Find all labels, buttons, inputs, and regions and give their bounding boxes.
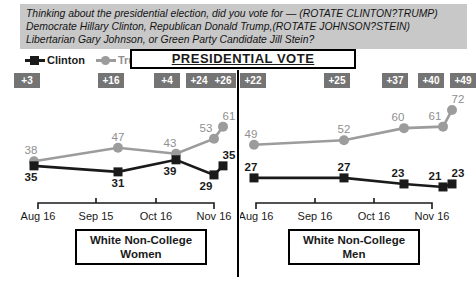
clinton-marker bbox=[114, 167, 123, 176]
line-chart-women: Aug 16Sep 15Oct 16Nov 163847435361353139… bbox=[8, 84, 236, 229]
trump-marker bbox=[447, 105, 457, 115]
x-axis-label: Sep 15 bbox=[79, 210, 114, 222]
x-axis-label: Oct 16 bbox=[358, 210, 390, 222]
panel-label-men: White Non-College Men bbox=[288, 229, 420, 265]
value-label: 61 bbox=[223, 110, 236, 122]
trump-marker bbox=[399, 123, 409, 133]
survey-question-line2: Democrate Hillary Clinton, Republican Do… bbox=[26, 20, 461, 33]
trump-marker bbox=[218, 122, 228, 132]
value-label: 23 bbox=[452, 167, 465, 179]
value-label: 72 bbox=[452, 93, 465, 105]
trump-line bbox=[254, 110, 452, 145]
line-chart-men: Aug 16Sep 16Oct 16Nov 164952606172272723… bbox=[240, 84, 468, 229]
clinton-line bbox=[254, 178, 452, 187]
clinton-marker bbox=[172, 155, 181, 164]
value-label: 61 bbox=[429, 110, 442, 122]
clinton-line bbox=[34, 160, 223, 175]
presidential-vote-chart: Thinking about the presidential election… bbox=[0, 0, 476, 285]
value-label: 43 bbox=[164, 137, 177, 149]
value-label: 60 bbox=[392, 111, 405, 123]
trump-marker bbox=[249, 140, 259, 150]
value-label: 52 bbox=[338, 123, 351, 135]
clinton-marker bbox=[448, 179, 457, 188]
trump-marker bbox=[339, 135, 349, 145]
clinton-marker bbox=[250, 173, 259, 182]
panel-men: +22+25+37+40+49 Aug 16Sep 16Oct 16Nov 16… bbox=[240, 62, 468, 274]
value-label: 49 bbox=[245, 128, 258, 140]
value-label: 23 bbox=[392, 167, 405, 179]
value-label: 35 bbox=[25, 171, 38, 183]
trump-line bbox=[34, 127, 223, 162]
clinton-marker bbox=[30, 161, 39, 170]
value-label: 27 bbox=[338, 161, 351, 173]
value-label: 21 bbox=[429, 170, 442, 182]
value-label: 47 bbox=[112, 131, 125, 143]
panel-divider bbox=[237, 70, 239, 277]
panel-label-women: White Non-College Women bbox=[75, 229, 207, 265]
x-axis bbox=[38, 198, 214, 209]
clinton-marker bbox=[439, 182, 448, 191]
value-label: 27 bbox=[245, 161, 258, 173]
value-label: 29 bbox=[200, 180, 213, 192]
clinton-marker bbox=[210, 170, 219, 179]
value-label: 39 bbox=[164, 165, 177, 177]
clinton-marker bbox=[340, 173, 349, 182]
clinton-marker bbox=[219, 161, 228, 170]
value-label: 31 bbox=[112, 177, 125, 189]
x-axis-label: Nov 16 bbox=[197, 210, 232, 222]
survey-question-line3: Libertarian Gary Johnson, or Green Party… bbox=[26, 33, 461, 46]
survey-question: Thinking about the presidential election… bbox=[20, 4, 467, 49]
value-label: 53 bbox=[200, 122, 213, 134]
clinton-marker bbox=[400, 179, 409, 188]
x-axis-label: Oct 16 bbox=[140, 210, 172, 222]
value-label: 38 bbox=[25, 144, 38, 156]
value-label: 35 bbox=[223, 149, 236, 161]
survey-question-line1: Thinking about the presidential election… bbox=[26, 7, 461, 20]
x-axis-label: Nov 16 bbox=[415, 210, 450, 222]
x-axis-label: Aug 16 bbox=[240, 210, 273, 222]
x-axis bbox=[256, 198, 432, 209]
x-axis-label: Sep 16 bbox=[298, 210, 333, 222]
panel-women: +3+16+4+24+26 Aug 16Sep 15Oct 16Nov 1638… bbox=[8, 62, 236, 274]
trump-marker bbox=[438, 122, 448, 132]
x-axis-label: Aug 16 bbox=[21, 210, 56, 222]
trump-marker bbox=[113, 143, 123, 153]
trump-marker bbox=[209, 134, 219, 144]
